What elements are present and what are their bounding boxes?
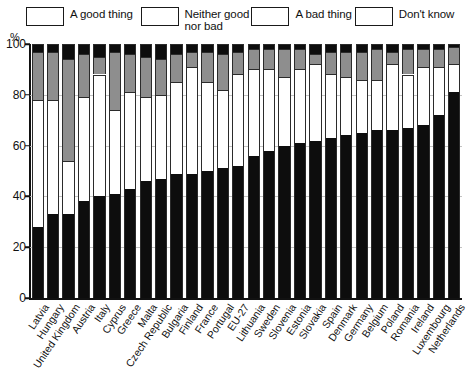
bar-segment-neither-good-nor-bad [201,82,213,171]
stacked-bar[interactable] [448,44,460,298]
stacked-bar[interactable] [417,44,429,298]
stacked-bar[interactable] [170,44,182,298]
bar-segment-don-t-know [93,44,105,57]
bar-segment-a-bad-thing [263,49,275,69]
bar-segment-neither-good-nor-bad [448,64,460,92]
bar-series-container [30,44,462,298]
bar-segment-a-bad-thing [47,52,59,100]
bar-segment-don-t-know [140,44,152,57]
bar-segment-neither-good-nor-bad [32,100,44,227]
bar-segment-a-good-thing [124,189,136,298]
legend-item-dont-know: Don't know [355,7,458,26]
legend-label-dont-know: Don't know [399,7,455,21]
bar-segment-a-good-thing [170,174,182,298]
bar-segment-don-t-know [155,44,167,59]
stacked-bar[interactable] [217,44,229,298]
bar-segment-a-bad-thing [371,49,383,79]
bar-segment-neither-good-nor-bad [217,90,229,169]
y-axis-tick-label: 0 [0,292,26,304]
bar-segment-a-bad-thing [217,54,229,90]
bar-segment-a-bad-thing [386,52,398,65]
stacked-bar[interactable] [47,44,59,298]
bar-segment-don-t-know [325,44,337,52]
stacked-bar[interactable] [309,44,321,298]
stacked-bar[interactable] [278,44,290,298]
bar-segment-a-bad-thing [356,52,368,80]
bar-segment-a-bad-thing [78,54,90,97]
bar-segment-neither-good-nor-bad [140,97,152,181]
stacked-bar[interactable] [93,44,105,298]
bar-segment-neither-good-nor-bad [248,69,260,155]
stacked-bar[interactable] [155,44,167,298]
bar-segment-a-good-thing [217,168,229,298]
stacked-bar[interactable] [186,44,198,298]
y-axis-tick-label: 80 [0,89,26,101]
bar-segment-a-good-thing [417,125,429,298]
bar-segment-don-t-know [417,44,429,49]
bar-segment-don-t-know [340,44,352,52]
bar-segment-neither-good-nor-bad [47,100,59,214]
bar-segment-a-good-thing [201,171,213,298]
bar-segment-don-t-know [294,44,306,49]
stacked-bar[interactable] [386,44,398,298]
bar-segment-don-t-know [248,44,260,49]
bar-segment-don-t-know [78,44,90,54]
bar-segment-a-bad-thing [402,49,414,74]
stacked-bar[interactable] [371,44,383,298]
bar-segment-neither-good-nor-bad [170,82,182,173]
bar-segment-a-good-thing [325,138,337,298]
stacked-bar[interactable] [140,44,152,298]
bar-segment-a-good-thing [62,214,74,298]
bar-segment-a-good-thing [47,214,59,298]
bar-segment-a-bad-thing [309,54,321,64]
stacked-bar[interactable] [124,44,136,298]
bar-segment-don-t-know [201,44,213,52]
bar-segment-a-good-thing [309,141,321,298]
bar-segment-neither-good-nor-bad [263,69,275,150]
bar-segment-don-t-know [356,44,368,52]
stacked-bar[interactable] [356,44,368,298]
bar-segment-a-bad-thing [124,54,136,92]
bar-segment-neither-good-nor-bad [124,92,136,189]
bar-segment-neither-good-nor-bad [386,64,398,130]
bar-segment-neither-good-nor-bad [356,80,368,133]
y-axis-tick-label: 60 [0,140,26,152]
bar-segment-neither-good-nor-bad [93,75,105,197]
stacked-bar[interactable] [109,44,121,298]
bar-segment-a-good-thing [340,135,352,298]
bar-segment-a-bad-thing [109,52,121,110]
x-axis-category-labels: LatviaHungaryUnited KingdomAustriaItalyC… [30,300,462,386]
bar-segment-a-good-thing [109,194,121,298]
stacked-bar[interactable] [340,44,352,298]
stacked-bar[interactable] [402,44,414,298]
bar-segment-a-good-thing [93,196,105,298]
stacked-bar[interactable] [248,44,260,298]
bar-segment-a-good-thing [32,227,44,298]
bar-segment-don-t-know [217,44,229,54]
stacked-bar[interactable] [62,44,74,298]
stacked-bar[interactable] [78,44,90,298]
bar-segment-don-t-know [124,44,136,54]
bar-segment-neither-good-nor-bad [433,67,445,115]
stacked-bar[interactable] [294,44,306,298]
stacked-bar[interactable] [325,44,337,298]
bar-segment-a-bad-thing [155,59,167,95]
y-axis-tick-label: 100 [0,38,26,50]
bar-segment-don-t-know [170,44,182,54]
bar-segment-a-good-thing [78,201,90,298]
stacked-bar[interactable] [433,44,445,298]
bar-segment-neither-good-nor-bad [232,74,244,165]
legend-item-neither-good-nor-bad: Neither good nor bad [141,7,252,32]
stacked-bar[interactable] [201,44,213,298]
bar-segment-don-t-know [232,44,244,52]
stacked-bar[interactable] [263,44,275,298]
bar-segment-a-good-thing [140,181,152,298]
bar-segment-a-bad-thing [201,52,213,82]
legend-swatch-a-bad-thing [251,7,289,26]
bar-segment-neither-good-nor-bad [402,75,414,128]
bar-segment-don-t-know [433,44,445,49]
stacked-bar[interactable] [32,44,44,298]
bar-segment-neither-good-nor-bad [417,67,429,125]
stacked-bar[interactable] [232,44,244,298]
bar-segment-a-bad-thing [248,49,260,69]
